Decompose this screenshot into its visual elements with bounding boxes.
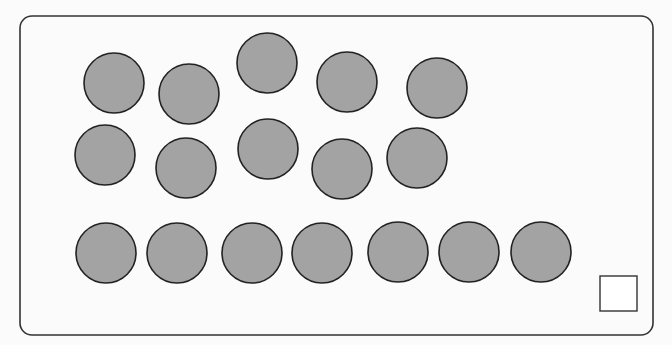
gray-circle [84, 53, 144, 113]
gray-circle [222, 223, 282, 283]
gray-circle [511, 222, 571, 282]
circles-container [75, 33, 571, 283]
gray-circle [292, 223, 352, 283]
gray-circle [312, 139, 372, 199]
gray-circle [407, 58, 467, 118]
gray-circle [76, 223, 136, 283]
answer-box[interactable] [600, 276, 637, 311]
gray-circle [159, 64, 219, 124]
top-scattered-group [75, 33, 467, 199]
gray-circle [75, 125, 135, 185]
gray-circle [387, 128, 447, 188]
counting-diagram [0, 0, 672, 345]
gray-circle [439, 222, 499, 282]
gray-circle [237, 33, 297, 93]
gray-circle [368, 222, 428, 282]
gray-circle [156, 138, 216, 198]
gray-circle [317, 52, 377, 112]
gray-circle [238, 119, 298, 179]
gray-circle [147, 223, 207, 283]
bottom-row-group [76, 222, 571, 283]
